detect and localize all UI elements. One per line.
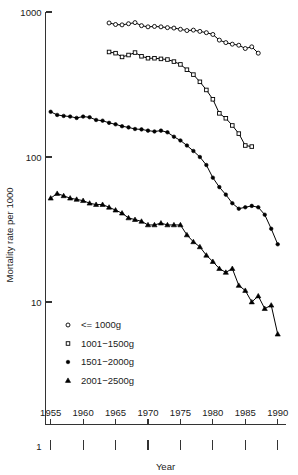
data-point-marker — [250, 204, 254, 208]
data-point-marker — [120, 23, 124, 27]
data-point-marker — [172, 26, 176, 30]
data-point-marker — [120, 124, 124, 128]
data-point-marker — [66, 323, 70, 327]
data-point-marker — [205, 163, 209, 167]
x-axis-tick-label: 1990 — [267, 407, 288, 418]
data-point-marker — [276, 243, 280, 247]
data-point-marker — [191, 28, 195, 32]
data-point-marker — [81, 115, 85, 119]
data-point-marker — [256, 51, 260, 55]
data-point-marker — [198, 29, 202, 33]
data-point-marker — [146, 56, 150, 60]
data-point-marker — [269, 303, 274, 307]
x-axis-tick-label: 1965 — [105, 407, 126, 418]
data-point-marker — [237, 43, 241, 47]
y-axis-tick-label: 100 — [26, 152, 42, 163]
data-point-marker — [204, 31, 208, 35]
data-point-marker — [275, 332, 280, 336]
data-point-marker — [49, 110, 53, 114]
chart-legend: <= 1000g1001−1500g1501−2000g2001−2500g — [65, 319, 134, 386]
data-point-marker — [211, 32, 215, 36]
data-point-marker — [159, 25, 163, 29]
data-point-marker — [133, 127, 137, 131]
legend-item-label: 1001−1500g — [81, 338, 134, 349]
data-point-marker — [127, 22, 131, 26]
data-point-marker — [243, 144, 247, 148]
data-point-marker — [256, 205, 260, 209]
data-point-marker — [62, 114, 66, 118]
x-axis-tick-label: 1985 — [235, 407, 256, 418]
series-open-circle — [107, 21, 260, 56]
data-point-marker — [172, 135, 176, 139]
data-point-marker — [55, 113, 59, 117]
legend-item-label: <= 1000g — [81, 319, 121, 330]
data-point-marker — [185, 29, 189, 33]
data-point-marker — [88, 115, 92, 119]
data-point-marker — [178, 27, 182, 31]
data-point-marker — [101, 119, 105, 123]
data-point-marker — [237, 207, 241, 211]
data-point-marker — [218, 112, 222, 116]
data-point-marker — [262, 306, 267, 310]
data-point-marker — [120, 55, 124, 59]
data-point-marker — [107, 21, 111, 25]
data-point-marker — [152, 24, 156, 28]
data-point-marker — [179, 63, 183, 67]
x-axis-tick-label: 1970 — [137, 407, 158, 418]
x-axis-tick-label: 1980 — [202, 407, 223, 418]
data-point-marker — [192, 73, 196, 77]
data-point-marker — [230, 42, 234, 46]
x-axis-tick-label: 1960 — [73, 407, 94, 418]
data-point-marker — [269, 227, 273, 231]
data-point-marker — [165, 26, 169, 30]
data-point-marker — [192, 149, 196, 153]
data-point-marker — [185, 144, 189, 148]
series-line — [109, 23, 258, 54]
data-point-marker — [243, 205, 247, 209]
data-point-marker — [263, 213, 267, 217]
x-axis-tick-label: 1975 — [170, 407, 191, 418]
series-filled-triangle — [48, 191, 280, 336]
data-point-marker — [66, 342, 70, 346]
legend-item-label: 1501−2000g — [81, 356, 134, 367]
data-point-marker — [65, 378, 70, 382]
data-point-marker — [127, 126, 131, 130]
y-axis-tick-label: 1000 — [20, 7, 41, 18]
y-axis-title: Mortality rate per 1000 — [4, 187, 15, 282]
data-point-marker — [75, 116, 79, 120]
data-point-marker — [217, 38, 221, 42]
data-point-marker — [230, 266, 235, 270]
data-point-marker — [146, 129, 150, 133]
data-point-marker — [140, 24, 144, 28]
data-point-marker — [127, 53, 131, 57]
data-point-marker — [223, 270, 228, 274]
data-point-marker — [140, 128, 144, 132]
data-point-marker — [224, 193, 228, 197]
series-open-square — [107, 50, 253, 148]
data-point-marker — [243, 47, 247, 51]
data-point-marker — [211, 98, 215, 102]
y-axis-tick-label: 1 — [36, 441, 41, 452]
data-point-marker — [198, 80, 202, 84]
data-point-marker — [250, 145, 254, 149]
axis-labels: 1000100101195519601965197019751980198519… — [4, 7, 288, 473]
data-point-marker — [146, 25, 150, 29]
data-point-marker — [231, 124, 235, 128]
data-point-marker — [224, 41, 228, 45]
chart-canvas: 1000100101195519601965197019751980198519… — [0, 0, 298, 475]
data-point-marker — [133, 21, 137, 25]
data-point-marker — [159, 129, 163, 133]
data-point-marker — [114, 23, 118, 27]
data-point-marker — [107, 121, 111, 125]
data-point-marker — [140, 54, 144, 58]
data-point-marker — [166, 131, 170, 135]
data-point-marker — [205, 88, 209, 92]
data-point-marker — [218, 185, 222, 189]
data-point-marker — [211, 176, 215, 180]
data-point-marker — [250, 45, 254, 49]
data-point-marker — [256, 293, 261, 297]
data-point-marker — [159, 57, 163, 61]
data-point-marker — [114, 51, 118, 55]
x-axis-tick-label: 1955 — [40, 407, 61, 418]
series-filled-circle — [49, 110, 280, 246]
